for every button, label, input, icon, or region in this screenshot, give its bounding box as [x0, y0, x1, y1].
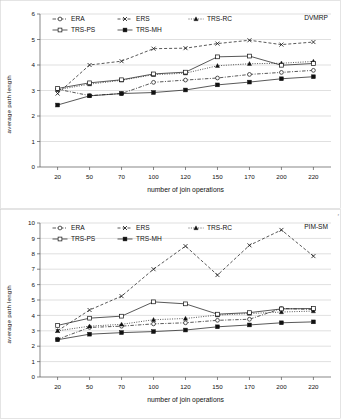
ytick-label-0: 0	[32, 163, 36, 170]
ytick-label-1: 1	[32, 138, 36, 145]
chart-dvmrp-ylabel-wrap: average path length	[2, 0, 14, 209]
point-TRS-MH-150	[216, 83, 220, 87]
legend-item-TRS-MH: TRS-MH	[118, 26, 162, 33]
point-ERA-150	[216, 76, 220, 80]
legend-marker-square-solid	[123, 28, 127, 32]
chart-frame	[0, 0, 340, 208]
point-ERS-200	[279, 228, 283, 232]
ytick-label-10: 10	[28, 219, 35, 226]
point-ERS-20	[56, 92, 60, 96]
xtick-label-20: 20	[54, 383, 61, 390]
point-TRS-MH-150	[216, 325, 220, 329]
legend-label-ERS: ERS	[136, 15, 150, 22]
point-TRS-PS-120	[184, 70, 188, 74]
point-ERA-170	[248, 73, 252, 77]
point-TRS-MH-220	[312, 75, 316, 79]
point-TRS-PS-170	[248, 311, 252, 315]
legend-marker-circle-open	[58, 17, 62, 21]
point-TRS-PS-20	[56, 324, 60, 328]
legend-label-ERA: ERA	[71, 15, 85, 22]
chart-pimsm: average path length 01234567891020507010…	[0, 209, 341, 419]
point-TRS-MH-20	[56, 338, 60, 342]
xtick-label-150: 150	[212, 173, 223, 180]
point-ERS-70	[120, 59, 124, 63]
legend-item-ERS: ERS	[118, 15, 151, 22]
legend-label-TRS-PS: TRS-PS	[71, 235, 96, 242]
xtick-label-100: 100	[148, 383, 159, 390]
xtick-label-220: 220	[308, 173, 319, 180]
point-TRS-PS-150	[216, 55, 220, 59]
series-ERS	[56, 38, 316, 95]
point-ERA-170	[248, 317, 252, 321]
legend-item-TRS-PS: TRS-PS	[53, 235, 96, 242]
chart-dvmrp-plot: 0123456205070100120150170200220number of…	[0, 0, 341, 209]
legend-label-TRS-MH: TRS-MH	[136, 26, 162, 33]
point-TRS-PS-50	[88, 316, 92, 320]
point-TRS-PS-150	[216, 312, 220, 316]
point-ERS-50	[88, 308, 92, 312]
legend-item-ERA: ERA	[53, 15, 86, 22]
legend-label-TRS-RC: TRS-RC	[207, 15, 232, 22]
xtick-label-170: 170	[244, 173, 255, 180]
point-ERS-120	[184, 244, 188, 248]
point-TRS-PS-20	[56, 87, 60, 91]
xtick-label-50: 50	[86, 383, 93, 390]
ytick-label-3: 3	[32, 87, 36, 94]
ytick-label-2: 2	[32, 342, 36, 349]
legend: ERAERSTRS-RCTRS-PSTRS-MH	[53, 224, 233, 242]
legend-item-TRS-RC: TRS-RC	[189, 224, 233, 231]
ytick-label-5: 5	[32, 296, 36, 303]
point-ERA-100	[152, 322, 156, 326]
legend-marker-square-solid	[123, 237, 127, 241]
point-ERS-150	[215, 273, 219, 277]
ytick-label-2: 2	[32, 112, 36, 119]
point-ERA-200	[280, 70, 284, 74]
point-TRS-PS-220	[312, 62, 316, 66]
xtick-label-170: 170	[244, 383, 255, 390]
chart-pimsm-plot: 012345678910205070100120150170200220numb…	[0, 209, 341, 419]
legend-item-TRS-RC: TRS-RC	[189, 15, 233, 22]
xtick-label-220: 220	[308, 383, 319, 390]
point-TRS-MH-220	[312, 320, 316, 324]
legend: ERAERSTRS-RCTRS-PSTRS-MH	[53, 15, 233, 33]
series-line-ERS	[58, 230, 314, 331]
legend-label-ERA: ERA	[71, 224, 85, 231]
point-TRS-PS-50	[88, 81, 92, 85]
point-TRS-MH-200	[280, 321, 284, 325]
legend-item-TRS-PS: TRS-PS	[53, 26, 96, 33]
legend-marker-square-open	[58, 237, 62, 241]
point-TRS-MH-170	[248, 80, 252, 84]
panel-label: PIM-SM	[304, 223, 328, 230]
chart-dvmrp-ylabel: average path length	[5, 75, 12, 134]
xtick-label-150: 150	[212, 383, 223, 390]
xtick-label-70: 70	[118, 173, 125, 180]
ytick-label-4: 4	[32, 61, 36, 68]
x-axis-title: number of join operations	[147, 186, 224, 194]
ytick-label-7: 7	[32, 265, 36, 272]
point-TRS-MH-120	[184, 88, 188, 92]
corner-artifact-mark: r	[338, 212, 339, 217]
x-axis-ticks: 205070100120150170200220	[54, 377, 319, 390]
panel-label: DVMRP	[304, 14, 328, 21]
point-TRS-PS-200	[280, 307, 284, 311]
legend-marker-triangle-solid	[194, 17, 198, 21]
point-TRS-PS-70	[120, 78, 124, 82]
point-ERS-170	[247, 243, 251, 247]
xtick-label-120: 120	[180, 383, 191, 390]
xtick-label-100: 100	[148, 173, 159, 180]
series-line-TRS-RC	[58, 61, 314, 89]
point-TRS-RC-100	[151, 318, 155, 322]
legend-item-ERS: ERS	[118, 224, 151, 231]
xtick-label-120: 120	[180, 173, 191, 180]
ytick-label-1: 1	[32, 358, 36, 365]
chart-pimsm-ylabel: average path length	[5, 285, 12, 344]
ytick-label-5: 5	[32, 36, 36, 43]
legend-label-TRS-RC: TRS-RC	[207, 224, 232, 231]
point-TRS-MH-100	[152, 330, 156, 334]
legend-label-ERS: ERS	[136, 224, 150, 231]
point-TRS-PS-170	[248, 54, 252, 58]
legend-item-ERA: ERA	[53, 224, 86, 231]
xtick-label-50: 50	[86, 173, 93, 180]
ytick-label-9: 9	[32, 235, 36, 242]
point-ERA-220	[312, 68, 316, 72]
